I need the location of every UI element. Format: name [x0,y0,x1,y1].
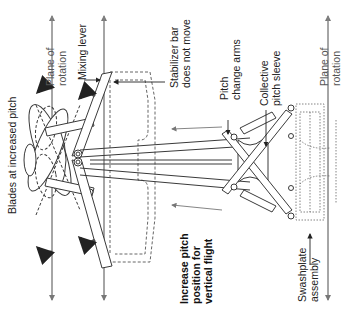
pitch-change-arms [80,138,250,190]
label-stabilizer-bar: Stabilizer bar does not move [168,19,192,88]
label-plane-of-rotation-left: Plane of rotation [44,47,68,86]
label-plane-of-rotation-right: Plane of rotation [318,47,342,86]
label-swashplate-assembly: Swashplate assembly [296,248,320,302]
swashplate [296,104,336,220]
label-pitch-change-arms: Pitch change arms [218,39,242,100]
label-collective-pitch-sleeve: Collective pitch sleeve [258,51,282,106]
collective-pitch-sleeve [222,105,294,219]
label-mixing-lever: Mixing lever [76,24,88,80]
rotor-blades [20,100,80,215]
direction-arrows [172,127,222,210]
stabilizer-bar [110,72,155,262]
label-increase-pitch: Increase pitch position for vertical fli… [178,233,214,304]
rotor-diagram: Plane of rotation Mixing lever Stabilize… [0,0,357,318]
label-blades-increased-pitch: Blades at increased pitch [6,97,18,214]
